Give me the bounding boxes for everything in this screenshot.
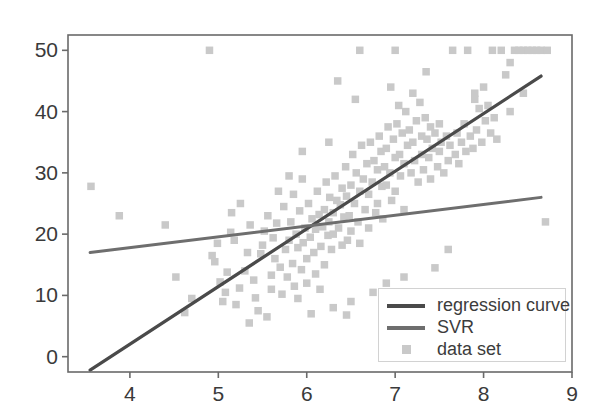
- data-point: [317, 243, 325, 251]
- data-point: [464, 47, 472, 55]
- data-point: [422, 68, 430, 76]
- data-point: [388, 197, 396, 205]
- data-point: [356, 47, 364, 55]
- x-tick-label: 9: [566, 382, 578, 406]
- data-point: [228, 209, 236, 217]
- data-point: [462, 148, 470, 156]
- data-point: [116, 212, 124, 220]
- data-point: [342, 163, 350, 171]
- data-point: [308, 215, 316, 223]
- data-point: [374, 166, 382, 174]
- data-point: [321, 261, 329, 269]
- data-point: [87, 183, 95, 191]
- legend-marker-square-icon: [402, 345, 411, 354]
- data-point: [396, 151, 404, 159]
- data-point: [307, 233, 315, 241]
- data-point: [343, 311, 351, 319]
- data-point: [280, 203, 288, 211]
- data-point: [263, 313, 271, 321]
- data-point: [387, 83, 395, 91]
- data-point: [471, 96, 479, 104]
- data-point: [338, 184, 346, 192]
- data-point: [269, 234, 277, 242]
- data-point: [284, 273, 292, 281]
- data-point: [325, 138, 333, 146]
- data-point: [303, 279, 311, 287]
- data-point: [273, 219, 281, 227]
- data-point: [444, 157, 452, 165]
- data-point: [321, 206, 329, 214]
- data-point: [282, 246, 290, 254]
- data-point: [398, 129, 406, 137]
- data-point: [219, 298, 227, 306]
- x-tick-label: 8: [478, 382, 490, 406]
- data-point: [344, 237, 352, 245]
- data-point: [365, 224, 373, 232]
- data-point: [290, 191, 298, 199]
- data-point: [367, 138, 375, 146]
- data-point: [473, 126, 481, 133]
- data-point: [372, 209, 380, 217]
- data-point: [334, 77, 342, 85]
- data-point: [395, 102, 403, 110]
- data-point: [214, 240, 222, 248]
- data-point: [271, 255, 279, 262]
- y-tick-label: 40: [8, 100, 58, 124]
- data-point: [312, 270, 320, 278]
- data-point: [268, 271, 276, 279]
- data-point: [402, 108, 410, 116]
- data-point: [502, 71, 510, 79]
- data-point: [427, 175, 435, 183]
- data-point: [414, 178, 422, 186]
- data-point: [390, 135, 398, 143]
- data-point: [449, 47, 457, 55]
- data-point: [431, 129, 439, 137]
- data-point: [363, 160, 371, 168]
- data-point: [493, 135, 501, 143]
- data-point: [254, 307, 262, 315]
- data-point: [299, 175, 307, 183]
- x-tick-label: 7: [389, 382, 401, 406]
- data-point: [316, 286, 324, 294]
- data-point: [303, 255, 311, 262]
- y-tick-label: 30: [8, 161, 58, 185]
- data-point: [211, 258, 219, 266]
- data-point: [421, 114, 429, 122]
- data-point: [162, 221, 170, 229]
- data-point: [361, 206, 369, 214]
- x-tick-label: 5: [212, 382, 224, 406]
- data-point: [345, 212, 353, 220]
- data-point: [360, 175, 368, 183]
- y-tick-label: 50: [8, 38, 58, 62]
- data-point: [296, 207, 304, 215]
- data-point: [423, 135, 431, 143]
- data-point: [305, 200, 313, 208]
- data-point: [307, 310, 315, 318]
- data-point: [393, 120, 401, 128]
- data-point: [369, 289, 377, 297]
- data-point: [384, 123, 392, 131]
- data-point: [331, 172, 339, 180]
- data-point: [326, 194, 334, 202]
- data-point: [244, 249, 252, 257]
- data-point: [206, 47, 214, 55]
- data-point: [298, 266, 306, 274]
- legend-marker-swatch: [387, 345, 425, 354]
- legend-entry: regression curve: [387, 295, 570, 316]
- data-point: [543, 47, 551, 55]
- data-point: [358, 142, 366, 150]
- data-point: [482, 117, 490, 125]
- data-point: [330, 304, 338, 312]
- data-point: [458, 138, 466, 146]
- data-point: [480, 83, 488, 91]
- data-point: [291, 282, 299, 290]
- data-point: [278, 290, 286, 298]
- data-point: [420, 166, 428, 174]
- data-point: [294, 295, 302, 303]
- data-point: [436, 120, 444, 128]
- data-point: [469, 145, 477, 153]
- data-point: [276, 263, 284, 271]
- data-point: [370, 157, 378, 165]
- data-point: [264, 212, 272, 220]
- data-point: [285, 172, 293, 180]
